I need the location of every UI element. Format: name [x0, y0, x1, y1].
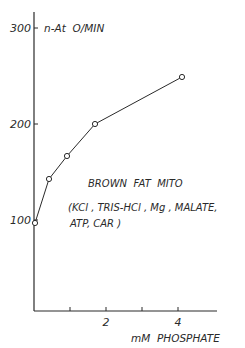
- y-tick-label-100: 100: [10, 214, 31, 227]
- x-tick-label-2: 2: [103, 316, 110, 329]
- data-point: [179, 74, 184, 79]
- x-tick-label-4: 4: [175, 316, 182, 329]
- annotation-line-3: ATP, CAR ): [69, 218, 121, 229]
- data-point: [64, 153, 69, 158]
- chart: 300 200 100 2 4 n-At O/MIN mM PHOSPHATE …: [0, 0, 245, 348]
- y-tick-label-300: 300: [10, 22, 31, 35]
- y-axis-title: n-At O/MIN: [44, 22, 104, 34]
- data-point: [32, 220, 37, 225]
- annotation-line-1: BROWN FAT MITO: [88, 178, 183, 189]
- y-tick-label-200: 200: [10, 118, 31, 131]
- data-point: [92, 121, 97, 126]
- data-point: [46, 176, 51, 181]
- x-axis-title: mM PHOSPHATE: [131, 332, 220, 344]
- annotation-line-2: (KCl , TRIS-HCl , Mg , MALATE,: [68, 202, 218, 213]
